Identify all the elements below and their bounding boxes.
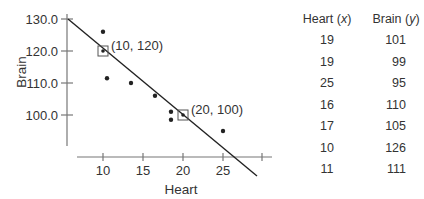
y-axis-label: Brain (14, 56, 29, 88)
data-point (101, 30, 105, 34)
x-tick-label: 20 (176, 163, 190, 178)
table-row: 2595 (296, 73, 424, 95)
cell-heart: 17 (296, 119, 358, 133)
cell-heart: 19 (296, 33, 358, 47)
cell-brain: 101 (358, 33, 406, 47)
x-tick-label: 10 (96, 163, 110, 178)
cell-brain: 126 (358, 141, 406, 155)
y-tick-label: 110.0 (26, 76, 58, 91)
cell-heart: 16 (296, 98, 358, 112)
table-row: 10126 (296, 137, 424, 159)
table-row: 16110 (296, 94, 424, 116)
cell-heart: 11 (296, 162, 358, 176)
cell-heart: 19 (296, 55, 358, 69)
y-tick-label: 130.0 (25, 12, 58, 27)
data-point (169, 110, 173, 114)
x-tick-label: 25 (216, 163, 230, 178)
cell-brain: 110 (358, 98, 406, 112)
data-point (153, 94, 157, 98)
data-point (105, 76, 109, 80)
cell-brain: 111 (358, 162, 406, 176)
table-row: 1999 (296, 51, 424, 73)
table-row: 17105 (296, 116, 424, 138)
cell-brain: 105 (358, 119, 406, 133)
cell-brain: 99 (358, 55, 406, 69)
scatter-plot: 100.0110.0120.0130.010152025HeartBrain(1… (0, 0, 290, 199)
annotation-point (101, 49, 105, 53)
header-brain: Brain (y) (358, 12, 424, 26)
table-row: 11111 (296, 159, 424, 181)
header-heart: Heart (x) (296, 12, 358, 26)
annotation-label: (10, 120) (111, 38, 163, 53)
data-point (221, 129, 225, 133)
table-row: 19101 (296, 30, 424, 52)
y-tick-label: 100.0 (25, 108, 58, 123)
x-tick-label: 15 (136, 163, 150, 178)
cell-heart: 25 (296, 76, 358, 90)
data-table: Heart (x) Brain (y) 19101199925951611017… (296, 8, 424, 180)
data-point (129, 81, 133, 85)
y-tick-label: 120.0 (25, 44, 58, 59)
annotation-label: (20, 100) (191, 102, 243, 117)
cell-brain: 95 (358, 76, 406, 90)
cell-heart: 10 (296, 141, 358, 155)
x-axis-label: Heart (164, 182, 197, 197)
data-point (169, 118, 173, 122)
annotation-point (181, 113, 185, 117)
table-header: Heart (x) Brain (y) (296, 8, 424, 30)
